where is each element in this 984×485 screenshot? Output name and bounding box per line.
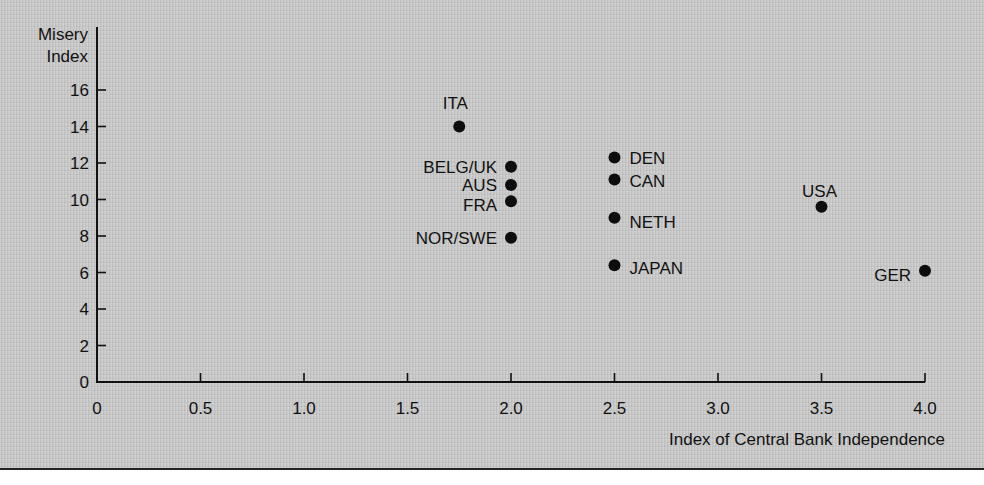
- data-point-japan: JAPAN: [609, 259, 684, 278]
- y-axis-title-line2: Index: [46, 47, 88, 66]
- scatter-plot: Misery Index 0246810121416 00.51.01.52.0…: [0, 0, 984, 468]
- y-tick-label: 0: [80, 373, 89, 392]
- data-point-fra: FRA: [463, 195, 517, 215]
- point-label: NOR/SWE: [416, 229, 497, 248]
- x-tick-label: 0: [92, 399, 101, 418]
- x-tick-label: 2.5: [603, 399, 627, 418]
- y-tick-label: 12: [70, 154, 89, 173]
- point-label: CAN: [630, 172, 666, 191]
- y-axis-ticks: 0246810121416: [70, 81, 106, 392]
- y-tick-label: 8: [80, 227, 89, 246]
- point-label: NETH: [630, 213, 676, 232]
- point-marker: [505, 161, 517, 173]
- point-label: ITA: [443, 94, 469, 113]
- point-label: JAPAN: [630, 259, 684, 278]
- data-point-can: CAN: [609, 172, 666, 191]
- y-tick-label: 16: [70, 81, 89, 100]
- data-point-aus: AUS: [462, 176, 517, 195]
- point-marker: [609, 152, 621, 164]
- x-tick-label: 2.0: [499, 399, 523, 418]
- x-tick-label: 1.5: [396, 399, 420, 418]
- y-tick-label: 14: [70, 118, 89, 137]
- data-point-nor-swe: NOR/SWE: [416, 229, 517, 248]
- x-tick-label: 3.0: [706, 399, 730, 418]
- x-axis-title: Index of Central Bank Independence: [669, 430, 945, 449]
- point-marker: [609, 212, 621, 224]
- point-marker: [609, 173, 621, 185]
- y-tick-label: 2: [80, 337, 89, 356]
- data-point-usa: USA: [802, 182, 838, 213]
- point-label: GER: [874, 266, 911, 285]
- y-tick-label: 6: [80, 264, 89, 283]
- y-tick-label: 10: [70, 191, 89, 210]
- point-label: AUS: [462, 176, 497, 195]
- point-marker: [816, 201, 828, 213]
- point-label: BELG/UK: [423, 158, 497, 177]
- x-tick-label: 1.0: [292, 399, 316, 418]
- point-label: DEN: [630, 149, 666, 168]
- point-marker: [609, 259, 621, 271]
- x-axis-ticks: 00.51.01.52.02.53.03.54.0: [92, 373, 937, 418]
- point-marker: [453, 121, 465, 133]
- point-marker: [919, 265, 931, 277]
- x-tick-label: 0.5: [189, 399, 213, 418]
- data-point-ita: ITA: [443, 94, 469, 133]
- data-point-den: DEN: [609, 149, 666, 168]
- y-tick-label: 4: [80, 300, 89, 319]
- data-point-neth: NETH: [609, 212, 676, 232]
- data-points: ITABELG/UKAUSFRANOR/SWEDENCANNETHJAPANUS…: [416, 94, 931, 285]
- x-tick-label: 4.0: [913, 399, 937, 418]
- point-marker: [505, 179, 517, 191]
- data-point-ger: GER: [874, 265, 931, 285]
- point-label: USA: [802, 182, 838, 201]
- chart-figure: Misery Index 0246810121416 00.51.01.52.0…: [0, 0, 984, 470]
- point-marker: [505, 232, 517, 244]
- x-tick-label: 3.5: [810, 399, 834, 418]
- point-marker: [505, 195, 517, 207]
- y-axis-title-line1: Misery: [38, 25, 89, 44]
- point-label: FRA: [463, 196, 498, 215]
- data-point-belg-uk: BELG/UK: [423, 158, 517, 177]
